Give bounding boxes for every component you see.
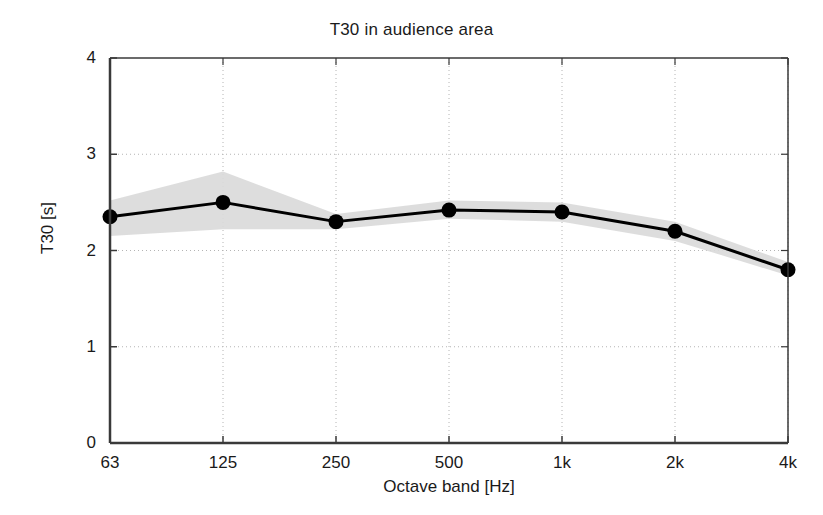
y-tick-label: 2	[56, 242, 96, 259]
x-tick-label: 1k	[532, 454, 592, 471]
y-tick-label: 1	[56, 338, 96, 355]
x-tick-label: 4k	[758, 454, 818, 471]
y-tick-label: 4	[56, 49, 96, 66]
x-tick-label: 63	[80, 454, 140, 471]
gridlines	[110, 58, 788, 443]
x-tick-label: 125	[193, 454, 253, 471]
y-tick-label: 0	[56, 434, 96, 451]
confidence-band	[110, 172, 788, 276]
y-tick-label: 3	[56, 145, 96, 162]
x-tick-label: 2k	[645, 454, 705, 471]
x-tick-label: 250	[306, 454, 366, 471]
y-axis-label: T30 [s]	[38, 158, 58, 298]
plot-canvas	[0, 0, 823, 515]
x-axis-label: Octave band [Hz]	[110, 477, 788, 497]
x-tick-label: 500	[419, 454, 479, 471]
chart-figure: T30 in audience area T30 [s] Octave band…	[0, 0, 823, 515]
